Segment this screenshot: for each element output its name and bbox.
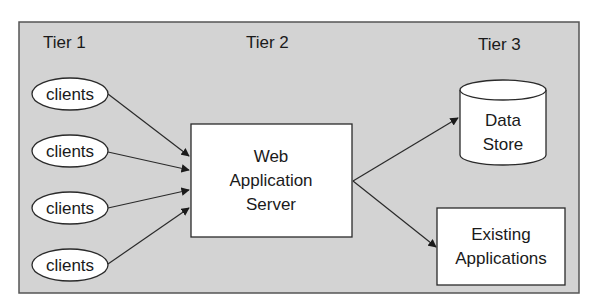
tier-1-label: Tier 1 — [43, 33, 86, 52]
server-line-3: Server — [246, 195, 296, 214]
data-store-line-1: Data — [485, 111, 521, 130]
web-application-server: Web Application Server — [191, 124, 352, 237]
client-node: clients — [32, 192, 108, 224]
client-node: clients — [32, 135, 108, 167]
client-node: clients — [32, 249, 108, 281]
three-tier-diagram: Tier 1 Tier 2 Tier 3 clients clients cli… — [0, 0, 593, 307]
tier-3-label: Tier 3 — [478, 35, 521, 54]
existing-apps-line-2: Applications — [455, 249, 547, 268]
client-label: clients — [46, 142, 94, 161]
server-line-1: Web — [254, 147, 289, 166]
client-node: clients — [32, 78, 108, 110]
existing-apps-line-1: Existing — [471, 225, 531, 244]
data-store-cylinder: Data Store — [460, 80, 546, 165]
server-line-2: Application — [229, 171, 312, 190]
client-label: clients — [46, 256, 94, 275]
existing-applications: Existing Applications — [437, 208, 565, 285]
tier-2-label: Tier 2 — [246, 33, 289, 52]
data-store-line-2: Store — [483, 135, 524, 154]
client-label: clients — [46, 85, 94, 104]
client-label: clients — [46, 199, 94, 218]
